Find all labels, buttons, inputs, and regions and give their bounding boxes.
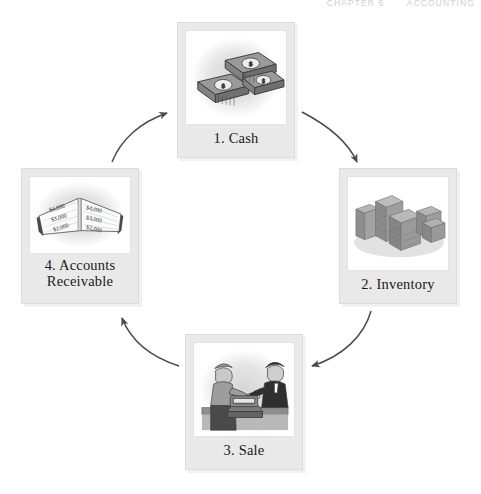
stacked-crates-icon: [348, 177, 448, 270]
cycle-node-accounts-receivable[interactable]: $4,000 $3,000 $2,000 $4,000 $3,000: [21, 168, 139, 304]
accounts-receivable-label: 4. Accounts Receivable: [29, 254, 131, 296]
inventory-photo: [347, 176, 449, 271]
header-chapter: CHAPTER 6: [327, 0, 385, 8]
inventory-label: 2. Inventory: [347, 271, 449, 300]
svg-text:$: $: [262, 78, 265, 84]
diagram-page: CHAPTER 6 ACCOUNTING: [0, 0, 481, 494]
ar-label-line1: 4. Accounts: [45, 257, 116, 273]
cycle-node-cash[interactable]: $ $ $: [177, 22, 295, 158]
open-ledger-book-icon: $4,000 $3,000 $2,000 $4,000 $3,000: [30, 177, 130, 253]
cash-register-sale-icon: [194, 343, 294, 436]
running-header: CHAPTER 6 ACCOUNTING: [327, 0, 475, 8]
header-title: ACCOUNTING: [407, 0, 475, 8]
svg-text:$: $: [249, 60, 253, 67]
arrow-cash-to-inventory: [302, 112, 357, 162]
sale-label: 3. Sale: [193, 437, 295, 466]
cycle-node-sale[interactable]: 3. Sale: [185, 334, 303, 470]
cash-label: 1. Cash: [185, 125, 287, 154]
cycle-node-inventory[interactable]: 2. Inventory: [339, 168, 457, 304]
ar-label-line2: Receivable: [47, 273, 113, 289]
arrow-sale-to-ar: [122, 318, 179, 366]
accounts-receivable-photo: $4,000 $3,000 $2,000 $4,000 $3,000: [29, 176, 131, 254]
arrow-ar-to-cash: [112, 113, 167, 162]
sale-photo: [193, 342, 295, 437]
arrow-inventory-to-sale: [312, 311, 371, 366]
svg-text:$: $: [222, 82, 226, 89]
cash-photo: $ $ $: [185, 30, 287, 125]
money-stacks-icon: $ $ $: [186, 31, 286, 124]
